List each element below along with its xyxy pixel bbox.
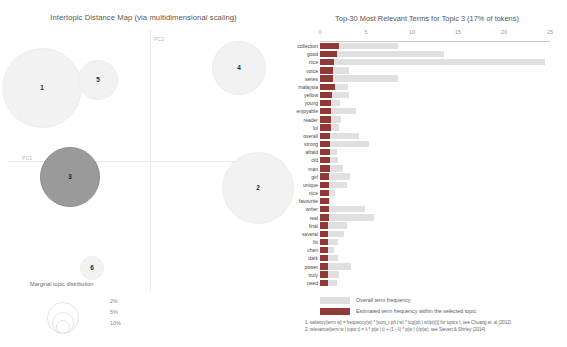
term-bar-row[interactable]: unique [320, 181, 550, 189]
topic-bubble-2[interactable]: 2 [222, 152, 294, 224]
term-label[interactable]: real [310, 215, 318, 220]
term-label[interactable]: final [309, 223, 318, 228]
topic-bubble-label: 3 [68, 174, 72, 180]
legend-estimated-term-frequency: Estimated term frequency within the sele… [320, 308, 476, 315]
topic-bubble-4[interactable]: 4 [212, 41, 266, 95]
term-bar-row[interactable]: man [320, 164, 550, 172]
term-label[interactable]: dark [308, 256, 318, 261]
topic-bubble-1[interactable]: 1 [2, 48, 82, 128]
bar-topic-frequency [320, 141, 330, 147]
term-bar-row[interactable]: nice [320, 58, 550, 66]
legend-swatch-estimated [320, 308, 350, 315]
term-label[interactable]: unique [303, 182, 318, 187]
term-label[interactable]: old [311, 158, 318, 163]
term-bar-row[interactable]: overall [320, 132, 550, 140]
term-label[interactable]: power [304, 264, 318, 269]
topic-bubble-5[interactable]: 5 [78, 60, 118, 100]
term-bar-row[interactable]: truly [320, 271, 550, 279]
term-label[interactable]: writer [306, 207, 318, 212]
term-label[interactable]: man [308, 166, 318, 171]
intertopic-distance-map-panel: Intertopic Distance Map (via multidimens… [0, 0, 287, 347]
term-bar-row[interactable]: fix [320, 238, 550, 246]
term-label[interactable]: girl [311, 174, 318, 179]
barchart-title: Top-30 Most Relevant Terms for Topic 3 (… [287, 14, 567, 23]
x-axis-tick-20: 20 [501, 29, 507, 35]
term-bar-row[interactable]: chen [320, 246, 550, 254]
term-label[interactable]: lol [313, 125, 318, 130]
relevant-terms-barchart-panel: Top-30 Most Relevant Terms for Topic 3 (… [287, 0, 567, 347]
bar-topic-frequency [320, 75, 333, 81]
term-label[interactable]: overall [303, 133, 318, 138]
term-label[interactable]: malaysia [298, 84, 318, 89]
term-label[interactable]: afraid [305, 150, 318, 155]
term-bar-row[interactable]: reader [320, 115, 550, 123]
term-bar-row[interactable]: power [320, 262, 550, 270]
topic-bubble-label: 4 [237, 65, 241, 71]
term-bar-row[interactable]: dark [320, 254, 550, 262]
term-label[interactable]: strong [304, 142, 318, 147]
term-label[interactable]: nice [309, 60, 318, 65]
topic-bubble-3[interactable]: 3 [40, 147, 100, 207]
term-label[interactable]: reader [304, 117, 318, 122]
term-bar-row[interactable]: girl [320, 173, 550, 181]
legend-swatch-overall [320, 297, 350, 304]
x-axis-tick-25: 25 [547, 29, 553, 35]
marginal-legend-label-2pct: 2% [110, 298, 118, 304]
bar-topic-frequency [320, 108, 331, 114]
term-bar-row[interactable]: real [320, 213, 550, 221]
marginal-legend-label-10pct: 10% [110, 320, 121, 326]
term-bar-row[interactable]: malaysia [320, 83, 550, 91]
bar-overall-frequency [320, 59, 545, 65]
term-label[interactable]: good [307, 52, 318, 57]
term-bar-row[interactable]: enjoyable [320, 107, 550, 115]
bar-topic-frequency [320, 198, 329, 204]
term-label[interactable]: truly [309, 272, 318, 277]
term-bar-row[interactable]: old [320, 156, 550, 164]
term-label[interactable]: chen [307, 248, 318, 253]
term-label[interactable]: collection [297, 44, 318, 49]
term-label[interactable]: need [307, 280, 318, 285]
term-label[interactable]: fix [313, 240, 318, 245]
bar-topic-frequency [320, 92, 332, 98]
bar-topic-frequency [320, 271, 328, 277]
term-label[interactable]: nice [309, 191, 318, 196]
term-bar-row[interactable]: yellow [320, 91, 550, 99]
term-bar-row[interactable]: favourite [320, 197, 550, 205]
bar-topic-frequency [320, 182, 329, 188]
term-bar-row[interactable]: several [320, 230, 550, 238]
term-bar-row[interactable]: final [320, 222, 550, 230]
term-label[interactable]: yellow [304, 93, 318, 98]
term-bar-row[interactable]: voice [320, 66, 550, 74]
term-label[interactable]: series [305, 76, 318, 81]
pc1-axis-label: PC1 [22, 155, 32, 161]
term-bar-row[interactable]: good [320, 50, 550, 58]
legend-overall-term-frequency: Overall term frequency [320, 297, 411, 304]
intertopic-map-title: Intertopic Distance Map (via multidimens… [0, 13, 287, 22]
term-label[interactable]: enjoyable [297, 109, 318, 114]
term-bar-row[interactable]: afraid [320, 148, 550, 156]
term-bar-row[interactable]: writer [320, 205, 550, 213]
marginal-legend-circle-10pct [47, 302, 79, 334]
bar-topic-frequency [320, 133, 330, 139]
term-bar-row[interactable]: young [320, 99, 550, 107]
bar-topic-frequency [320, 239, 328, 245]
term-bar-row[interactable]: collection [320, 42, 550, 50]
term-label[interactable]: young [304, 101, 318, 106]
bar-topic-frequency [320, 190, 329, 196]
term-label[interactable]: several [302, 231, 318, 236]
topic-bubble-6[interactable]: 6 [80, 256, 104, 280]
term-bar-row[interactable]: lol [320, 124, 550, 132]
bar-topic-frequency [320, 100, 331, 106]
term-bar-row[interactable]: strong [320, 140, 550, 148]
x-axis-tick-10: 10 [409, 29, 415, 35]
topic-bubble-label: 2 [256, 185, 260, 191]
legend-overall-label: Overall term frequency [356, 297, 411, 303]
term-bar-row[interactable]: need [320, 279, 550, 287]
bar-topic-frequency [320, 43, 339, 49]
term-bar-row[interactable]: nice [320, 189, 550, 197]
term-bar-row[interactable]: series [320, 75, 550, 83]
term-label[interactable]: voice [306, 68, 318, 73]
bar-topic-frequency [320, 116, 331, 122]
x-axis-tick-0: 0 [319, 29, 322, 35]
term-label[interactable]: favourite [299, 199, 318, 204]
